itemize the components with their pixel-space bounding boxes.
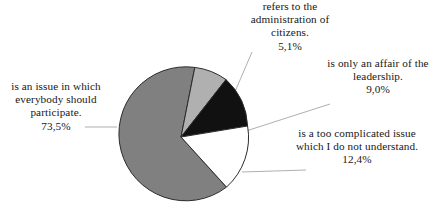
pie-chart-figure: is an issue in which everybody should pa… xyxy=(0,0,430,218)
pie-label-complicated-text: is a too complicated issue which I do no… xyxy=(296,127,418,152)
pie-label-leadership-text: is only an affair of the leadership. xyxy=(327,57,428,82)
pie-label-complicated-percent: 12,4% xyxy=(286,153,428,166)
pie-label-participate-percent: 73,5% xyxy=(2,120,110,133)
pie-label-leadership: is only an affair of the leadership. 9,0… xyxy=(326,57,430,97)
pie-label-administration-percent: 5,1% xyxy=(232,40,348,53)
pie-label-complicated: is a too complicated issue which I do no… xyxy=(286,127,428,167)
pie-label-participate: is an issue in which everybody should pa… xyxy=(2,80,110,133)
pie-label-participate-text: is an issue in which everybody should pa… xyxy=(11,80,101,118)
pie-label-administration-text: refers to the administration of citizens… xyxy=(251,0,329,38)
pie-label-administration: refers to the administration of citizens… xyxy=(232,0,348,53)
leader-line-complicated xyxy=(242,170,306,172)
pie-label-leadership-percent: 9,0% xyxy=(326,83,430,96)
